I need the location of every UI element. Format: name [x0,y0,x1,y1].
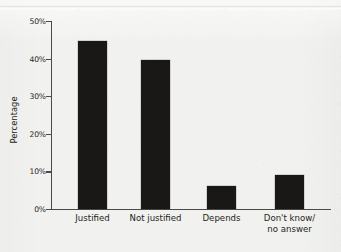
x-axis-label-dont-know-no-answer: Don't know/ no answer [253,213,326,234]
x-axis-label-dont-know-line1: Don't know/ [253,213,326,224]
x-axis-label-justified-line1: Justified [62,213,123,224]
chart-page: Percentage 50% 40% 30% 20% 10% 0% [0,0,341,252]
x-axis-label-justified: Justified [62,213,123,224]
x-axis-label-not-justified: Not justified [120,213,191,224]
y-tick-label-20: 20% [2,129,46,138]
x-axis-label-depends-line1: Depends [192,213,251,224]
x-axis-label-not-justified-line1: Not justified [120,213,191,224]
bar-not-justified [141,60,170,210]
y-tick-label-50: 50% [2,17,46,26]
y-tick-label-30: 30% [2,92,46,101]
y-tick-label-0: 0% [2,205,46,214]
x-axis-label-dont-know-line2: no answer [253,224,326,235]
bar-depends [207,186,236,209]
y-tick-label-40: 40% [2,54,46,63]
bar-justified [78,41,107,209]
y-tick-label-10: 10% [2,167,46,176]
x-axis-line [51,209,331,210]
x-axis-label-depends: Depends [192,213,251,224]
bar-dont-know-no-answer [275,175,304,209]
bar-chart-plot-area: Percentage 50% 40% 30% 20% 10% 0% [0,0,341,252]
y-axis-line [51,21,52,210]
